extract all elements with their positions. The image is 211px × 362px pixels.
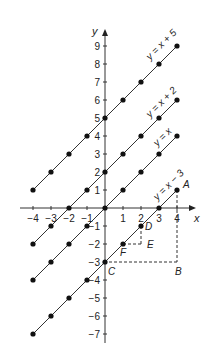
y-tick-label: −2 [89, 239, 101, 250]
y-tick-label: 3 [94, 149, 100, 160]
data-point [30, 331, 35, 336]
point-label-d: D [145, 221, 152, 232]
data-point [48, 259, 53, 264]
data-point [48, 313, 53, 318]
data-point [48, 223, 53, 228]
data-point [102, 115, 107, 120]
data-point [84, 187, 89, 192]
y-tick-label: 2 [94, 167, 100, 178]
x-axis-label: x [193, 212, 200, 224]
data-point [66, 295, 71, 300]
data-point [138, 133, 143, 138]
line-label: y = x − 3 [150, 167, 186, 203]
y-tick-label: 7 [94, 77, 100, 88]
y-tick-label: 1 [94, 185, 100, 196]
x-tick-label: 1 [120, 213, 126, 224]
y-tick-label: 4 [94, 131, 100, 142]
line-label: y = x + 2 [143, 84, 179, 120]
data-point [120, 97, 125, 102]
data-point [156, 115, 161, 120]
x-axis-arrow-icon [189, 205, 196, 211]
x-tick-label: 2 [138, 213, 144, 224]
x-tick-label: −3 [45, 213, 57, 224]
coordinate-plane-diagram: xy−4−3−2−11234987654321−1−2−3−4−5−6−7y =… [0, 0, 211, 362]
x-tick-label: 3 [156, 213, 162, 224]
line-label: y = x + 5 [143, 27, 179, 63]
data-point [174, 187, 179, 192]
data-point [156, 61, 161, 66]
data-point [138, 79, 143, 84]
data-point [84, 133, 89, 138]
data-point [156, 151, 161, 156]
data-point [138, 223, 143, 228]
y-tick-label: −1 [89, 221, 101, 232]
data-point [174, 97, 179, 102]
data-point [48, 169, 53, 174]
data-point [66, 241, 71, 246]
y-axis-label: y [91, 25, 99, 37]
point-label-e: E [147, 239, 154, 250]
x-tick-label: −4 [27, 213, 39, 224]
data-point [102, 205, 107, 210]
point-label-b: B [175, 266, 182, 277]
data-point [120, 151, 125, 156]
y-tick-label: −3 [89, 257, 101, 268]
data-point [156, 205, 161, 210]
data-point [30, 187, 35, 192]
point-label-f: F [120, 247, 127, 258]
y-axis-arrow-icon [102, 29, 108, 36]
data-point [174, 43, 179, 48]
data-point [120, 187, 125, 192]
y-tick-label: −5 [89, 293, 101, 304]
y-tick-label: −7 [89, 329, 101, 340]
point-label-a: A [182, 179, 190, 190]
y-tick-label: 8 [94, 59, 100, 70]
y-tick-label: 5 [94, 113, 100, 124]
y-tick-label: −6 [89, 311, 101, 322]
data-point [102, 259, 107, 264]
data-point [174, 133, 179, 138]
data-point [30, 277, 35, 282]
y-tick-label: 9 [94, 41, 100, 52]
line-label: y = x [150, 125, 174, 149]
data-point [102, 169, 107, 174]
x-tick-label: −2 [63, 213, 75, 224]
data-point [138, 169, 143, 174]
data-point [66, 205, 71, 210]
labels: xy−4−3−2−11234987654321−1−2−3−4−5−6−7y =… [27, 25, 200, 340]
data-point [66, 151, 71, 156]
data-point [120, 241, 125, 246]
data-point [30, 241, 35, 246]
y-tick-label: 6 [94, 95, 100, 106]
point-label-c: C [108, 266, 116, 277]
x-tick-label: 4 [174, 213, 180, 224]
y-tick-label: −4 [89, 275, 101, 286]
